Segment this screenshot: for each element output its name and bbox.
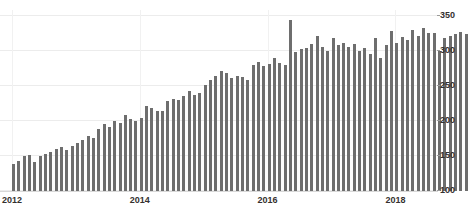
- y-axis-tick-mark: [437, 50, 440, 51]
- bar: [294, 52, 297, 191]
- bar: [332, 38, 335, 191]
- y-axis-labels: 100150200250300350: [438, 0, 468, 219]
- y-axis-tick-label: 250: [440, 81, 466, 90]
- bar: [17, 161, 20, 191]
- bar: [305, 48, 308, 192]
- bar: [395, 43, 398, 191]
- bar: [49, 152, 52, 191]
- bar: [321, 47, 324, 191]
- bar: [23, 156, 26, 191]
- y-axis-tick-label: 200: [440, 116, 466, 125]
- bar: [12, 164, 15, 191]
- bar: [87, 136, 90, 191]
- y-axis-tick-label: 100: [440, 186, 466, 195]
- y-axis-tick-label: 350: [440, 11, 466, 20]
- bar: [119, 123, 122, 191]
- bar: [406, 40, 409, 191]
- x-axis-baseline: [0, 191, 438, 192]
- bar: [33, 162, 36, 191]
- bar: [150, 108, 153, 191]
- bar: [166, 101, 169, 191]
- bar-chart: 100150200250300350 2012201420162018: [0, 0, 468, 219]
- bar: [161, 111, 164, 191]
- bar: [76, 143, 79, 191]
- bar: [417, 36, 420, 191]
- bar: [411, 30, 414, 191]
- bar: [60, 147, 63, 191]
- bar: [140, 118, 143, 192]
- bar: [278, 63, 281, 191]
- bar: [156, 111, 159, 191]
- bar: [55, 149, 58, 191]
- bar: [374, 38, 377, 191]
- bar: [273, 58, 276, 191]
- bar: [326, 51, 329, 191]
- bar: [369, 54, 372, 191]
- x-axis-tick-label: 2012: [2, 195, 22, 205]
- bar: [97, 129, 100, 191]
- bar: [129, 119, 132, 191]
- bar: [347, 47, 350, 191]
- bar: [44, 154, 47, 191]
- bar: [182, 96, 185, 191]
- bar: [198, 93, 201, 191]
- bar: [401, 37, 404, 191]
- bar: [209, 80, 212, 191]
- bar: [145, 106, 148, 191]
- bar: [316, 36, 319, 191]
- bar: [214, 76, 217, 191]
- bar: [310, 44, 313, 191]
- y-axis-tick-mark: [437, 190, 440, 191]
- bar: [268, 64, 271, 191]
- bar: [427, 33, 430, 191]
- bar: [353, 44, 356, 191]
- bar: [39, 156, 42, 191]
- bar: [433, 33, 436, 191]
- cropped-title-text: [0, 0, 468, 7]
- bar: [81, 140, 84, 191]
- y-axis-tick-mark: [437, 155, 440, 156]
- bar: [300, 49, 303, 191]
- bar: [92, 138, 95, 191]
- bar: [363, 48, 366, 192]
- y-axis-tick-label: 300: [440, 46, 466, 55]
- bar: [257, 62, 260, 191]
- x-axis-tick-label: 2018: [385, 195, 405, 205]
- bar: [246, 80, 249, 191]
- bar: [262, 66, 265, 191]
- bar: [113, 121, 116, 191]
- bar: [177, 100, 180, 191]
- bar: [220, 71, 223, 191]
- bar: [422, 28, 425, 191]
- bar: [289, 20, 292, 192]
- bar: [284, 65, 287, 191]
- bar: [193, 95, 196, 191]
- bar: [390, 31, 393, 191]
- bar: [342, 43, 345, 191]
- bar: [108, 127, 111, 191]
- bar: [385, 45, 388, 191]
- bar: [103, 124, 106, 191]
- bar-series: [0, 10, 438, 190]
- bar: [230, 78, 233, 191]
- bar: [65, 150, 68, 191]
- bar: [236, 76, 239, 192]
- x-axis-tick-label: 2016: [258, 195, 278, 205]
- bar: [188, 91, 191, 191]
- y-axis-tick-mark: [437, 15, 440, 16]
- bar: [134, 121, 137, 191]
- bar: [225, 73, 228, 191]
- bar: [172, 99, 175, 191]
- bar: [358, 51, 361, 191]
- bar: [252, 65, 255, 191]
- y-axis-tick-label: 150: [440, 151, 466, 160]
- bar: [71, 146, 74, 192]
- bar: [337, 45, 340, 191]
- bar: [124, 115, 127, 191]
- x-axis-labels: 2012201420162018: [0, 195, 468, 213]
- x-axis-tick-label: 2014: [130, 195, 150, 205]
- y-axis-tick-mark: [437, 120, 440, 121]
- y-axis-tick-mark: [437, 85, 440, 86]
- bar: [28, 155, 31, 191]
- bar: [379, 58, 382, 191]
